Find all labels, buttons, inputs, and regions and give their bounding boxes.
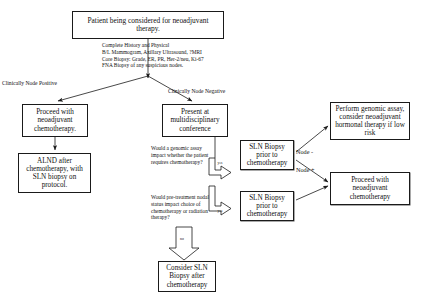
- edge-label-clinically-node-positive: Clinically Node Positive: [2, 80, 57, 86]
- node-multidisciplinary-conference: Present at multidisciplinary conference: [162, 104, 228, 137]
- flowchart-canvas: Patient being considered for neoadjuvant…: [0, 0, 422, 300]
- node-alnd-after-chemotherapy: ALND after chemotherapy, with SLN biopsy…: [18, 153, 91, 193]
- node-consider-sln-biopsy-after-chemotherapy: Consider SLN Biopsy after chemotherapy: [158, 261, 216, 292]
- node-sln-biopsy-prior-to-chemotherapy-top: SLN Biopsy prior to chemotherapy: [240, 140, 294, 170]
- node-sln-biopsy-prior-to-chemotherapy-bottom: SLN Biopsy prior to chemotherapy: [240, 191, 294, 221]
- node-patient-considered: Patient being considered for neoadjuvant…: [72, 11, 224, 39]
- node-proceed-with-neoadjuvant-chemotherapy: Proceed with neoadjuvant chemotherapy.: [22, 104, 88, 137]
- edge-label-yes-genomic: yes: [214, 161, 226, 165]
- edge-label-clinically-node-negative: Clinically Node Negative: [168, 88, 225, 94]
- edge-label-yes-nodal: yes: [214, 209, 226, 213]
- edge-sln-bottom-to-proceed: [296, 186, 328, 200]
- edge-label-no-nodal: no: [176, 237, 188, 241]
- node-perform-genomic-assay: Perform genomic assay, consider neoadjuv…: [330, 102, 410, 140]
- annotation-question-nodal-status: Would pre-treatment nodal status impact …: [151, 194, 215, 221]
- edge-label-node-positive: Node +: [296, 166, 314, 173]
- edge-branch-to-proceed-neoadjuvant: [58, 76, 148, 101]
- annotation-question-genomic-assay: Would a genomic assay impact whether the…: [151, 145, 213, 165]
- block-arrow-no-nodal: [169, 227, 199, 260]
- annotation-workup: Complete History and Physical B/L Mammog…: [102, 42, 204, 69]
- node-proceed-with-neoadjuvant-chemotherapy-right: Proceed with neoadjuvant chemotherapy: [330, 172, 410, 205]
- edge-label-node-negative: Node -: [296, 148, 313, 155]
